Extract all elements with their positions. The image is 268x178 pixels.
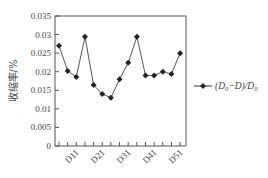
y-tick-label: 0.01	[35, 104, 51, 114]
data-point-marker	[168, 71, 174, 77]
data-point-marker	[160, 69, 166, 75]
x-tick-label: D21	[89, 147, 107, 165]
legend-label: (D0−D)/D0	[215, 81, 258, 92]
y-tick-label: 0	[47, 141, 52, 151]
x-tick-label: D41	[141, 147, 159, 165]
line-chart: 00.0050.010.0150.020.0250.030.035 D11D21…	[0, 0, 268, 178]
y-tick-label: 0.025	[31, 48, 52, 58]
legend-marker-icon	[200, 83, 206, 89]
data-point-marker	[73, 74, 79, 80]
data-series	[56, 34, 183, 101]
data-point-marker	[151, 72, 157, 78]
data-point-marker	[143, 72, 149, 78]
x-tick-label: D51	[166, 147, 184, 165]
data-point-marker	[117, 76, 123, 82]
y-axis-title: 收缩率/%	[7, 60, 19, 103]
y-tick-label: 0.035	[31, 11, 52, 21]
data-point-marker	[125, 60, 131, 66]
x-tick-label: D31	[115, 147, 133, 165]
data-point-marker	[56, 43, 62, 49]
legend: (D0−D)/D0	[194, 81, 258, 92]
data-point-marker	[134, 34, 140, 40]
x-tick-label: D11	[63, 147, 81, 165]
data-point-marker	[65, 68, 71, 74]
y-tick-label: 0.02	[35, 67, 51, 77]
y-tick-label: 0.015	[31, 85, 52, 95]
series-line	[59, 37, 180, 98]
y-tick-label: 0.005	[31, 122, 52, 132]
data-point-marker	[108, 95, 114, 101]
y-tick-label: 0.03	[35, 30, 51, 40]
data-point-marker	[177, 50, 183, 56]
data-point-marker	[82, 34, 88, 40]
